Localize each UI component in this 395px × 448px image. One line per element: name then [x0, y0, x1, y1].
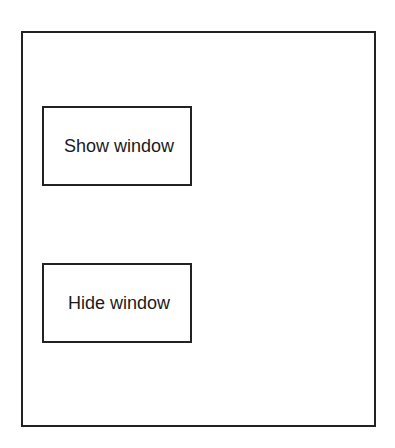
show-window-button[interactable]: Show window	[42, 106, 192, 186]
window-frame	[21, 31, 376, 427]
hide-window-label: Hide window	[68, 293, 170, 314]
show-window-label: Show window	[64, 136, 174, 157]
hide-window-button[interactable]: Hide window	[42, 263, 192, 343]
